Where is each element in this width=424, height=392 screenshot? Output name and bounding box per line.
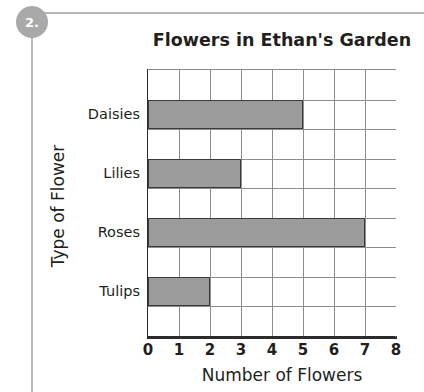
top-divider-rule bbox=[38, 12, 424, 14]
category-label-list: DaisiesLiliesRosesTulips bbox=[60, 70, 144, 336]
question-number-badge: 2. bbox=[16, 6, 48, 38]
bar-daisies bbox=[148, 100, 303, 130]
grid-line-vertical bbox=[303, 70, 304, 336]
x-tick-1: 1 bbox=[168, 341, 190, 359]
x-tick-0: 0 bbox=[137, 341, 159, 359]
bar-tulips bbox=[148, 277, 210, 307]
category-label-tulips: Tulips bbox=[99, 277, 140, 307]
grid-line-horizontal bbox=[148, 247, 396, 248]
x-tick-3: 3 bbox=[230, 341, 252, 359]
x-tick-7: 7 bbox=[354, 341, 376, 359]
grid-line-horizontal bbox=[148, 188, 396, 189]
x-axis-line bbox=[147, 336, 397, 339]
x-tick-6: 6 bbox=[323, 341, 345, 359]
x-tick-4: 4 bbox=[261, 341, 283, 359]
category-label-daisies: Daisies bbox=[88, 100, 140, 130]
grid-line-horizontal bbox=[148, 129, 396, 130]
x-tick-2: 2 bbox=[199, 341, 221, 359]
grid-line-horizontal bbox=[148, 306, 396, 307]
x-tick-8: 8 bbox=[385, 341, 407, 359]
bar-lilies bbox=[148, 159, 241, 189]
category-label-lilies: Lilies bbox=[103, 159, 140, 189]
bar-roses bbox=[148, 218, 365, 248]
x-tick-5: 5 bbox=[292, 341, 314, 359]
category-label-roses: Roses bbox=[98, 218, 140, 248]
question-stem-line bbox=[31, 22, 33, 392]
x-tick-label-list: 012345678 bbox=[148, 341, 396, 363]
x-axis-label: Number of Flowers bbox=[140, 365, 424, 385]
plot-area bbox=[148, 70, 396, 336]
grid-line-vertical bbox=[334, 70, 335, 336]
chart-title: Flowers in Ethan's Garden bbox=[140, 30, 424, 50]
grid-line-vertical bbox=[365, 70, 366, 336]
